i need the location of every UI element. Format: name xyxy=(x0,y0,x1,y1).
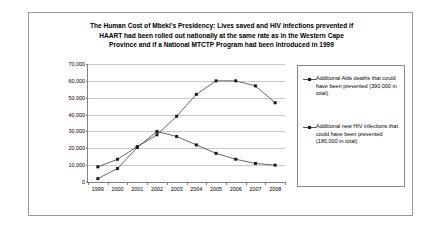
series-marker-0 xyxy=(195,93,198,96)
x-tick-label: 2007 xyxy=(249,186,261,192)
y-tick-label: 50,000 xyxy=(69,95,86,101)
series-marker-1 xyxy=(254,162,257,165)
x-tick-mark xyxy=(285,182,286,185)
legend-line-marker-icon xyxy=(303,76,316,83)
x-tick-mark xyxy=(206,182,207,185)
series-marker-1 xyxy=(155,130,158,133)
series-marker-0 xyxy=(96,165,99,168)
legend-aids-line-1: Additional Aids deaths that xyxy=(316,75,381,81)
chart-title-line-2: HAART had been rolled out nationally at … xyxy=(35,31,408,41)
series-marker-1 xyxy=(195,143,198,146)
x-tick-mark xyxy=(226,182,227,185)
y-tick-label: 20,000 xyxy=(69,145,86,151)
x-tick-label: 1999 xyxy=(92,186,104,192)
chart-figure: The Human Cost of Mbeki's Presidency: Li… xyxy=(28,12,413,216)
series-marker-0 xyxy=(254,84,257,87)
series-marker-1 xyxy=(215,152,218,155)
chart-legend: Additional Aids deaths that could have b… xyxy=(297,65,405,187)
series-marker-0 xyxy=(116,158,119,161)
legend-entry-aids-deaths: Additional Aids deaths that could have b… xyxy=(303,75,402,98)
y-tick-label: 0 xyxy=(82,179,85,185)
legend-hiv-line-1: Additional new HIV xyxy=(316,123,362,129)
x-tick-label: 2006 xyxy=(230,186,242,192)
series-marker-1 xyxy=(234,158,237,161)
x-tick-label: 2004 xyxy=(190,186,202,192)
series-marker-0 xyxy=(215,79,218,82)
legend-entry-hiv-infections: Additional new HIV infections that could… xyxy=(303,123,402,146)
x-tick-mark xyxy=(108,182,109,185)
x-tick-label: 2000 xyxy=(112,186,124,192)
series-marker-0 xyxy=(274,101,277,104)
x-tick-mark xyxy=(88,182,89,185)
series-marker-1 xyxy=(116,167,119,170)
legend-label-hiv-infections: Additional new HIV infections that could… xyxy=(316,123,402,146)
series-marker-0 xyxy=(155,133,158,136)
x-tick-mark xyxy=(127,182,128,185)
x-tick-label: 2001 xyxy=(131,186,143,192)
y-tick-label: 60,000 xyxy=(69,78,86,84)
x-tick-mark xyxy=(265,182,266,185)
chart-title: The Human Cost of Mbeki's Presidency: Li… xyxy=(35,21,408,50)
x-tick-mark xyxy=(246,182,247,185)
series-marker-1 xyxy=(136,146,139,149)
chart-title-line-3: Province and if a National MTCTP Program… xyxy=(35,40,408,50)
series-line-0 xyxy=(98,81,275,167)
plot-wrapper: 010,00020,00030,00040,00050,00060,00070,… xyxy=(57,61,285,197)
legend-hiv-line-4: total) xyxy=(345,138,357,144)
plot-area: 010,00020,00030,00040,00050,00060,00070,… xyxy=(87,64,285,183)
x-tick-label: 2008 xyxy=(269,186,281,192)
x-tick-label: 2002 xyxy=(151,186,163,192)
series-marker-0 xyxy=(175,115,178,118)
x-tick-label: 2005 xyxy=(210,186,222,192)
x-tick-label: 2003 xyxy=(171,186,183,192)
y-tick-label: 30,000 xyxy=(69,128,86,134)
x-tick-mark xyxy=(167,182,168,185)
series-marker-1 xyxy=(175,135,178,138)
y-tick-label: 10,000 xyxy=(69,162,86,168)
legend-label-aids-deaths: Additional Aids deaths that could have b… xyxy=(316,75,402,98)
y-tick-label: 40,000 xyxy=(69,112,86,118)
series-marker-1 xyxy=(96,177,99,180)
series-marker-1 xyxy=(274,164,277,167)
chart-title-line-1: The Human Cost of Mbeki's Presidency: Li… xyxy=(35,21,408,31)
series-plot xyxy=(88,64,285,182)
legend-line-marker-icon xyxy=(303,124,316,131)
x-tick-mark xyxy=(147,182,148,185)
x-tick-mark xyxy=(187,182,188,185)
series-marker-0 xyxy=(234,79,237,82)
y-tick-label: 70,000 xyxy=(69,61,86,67)
